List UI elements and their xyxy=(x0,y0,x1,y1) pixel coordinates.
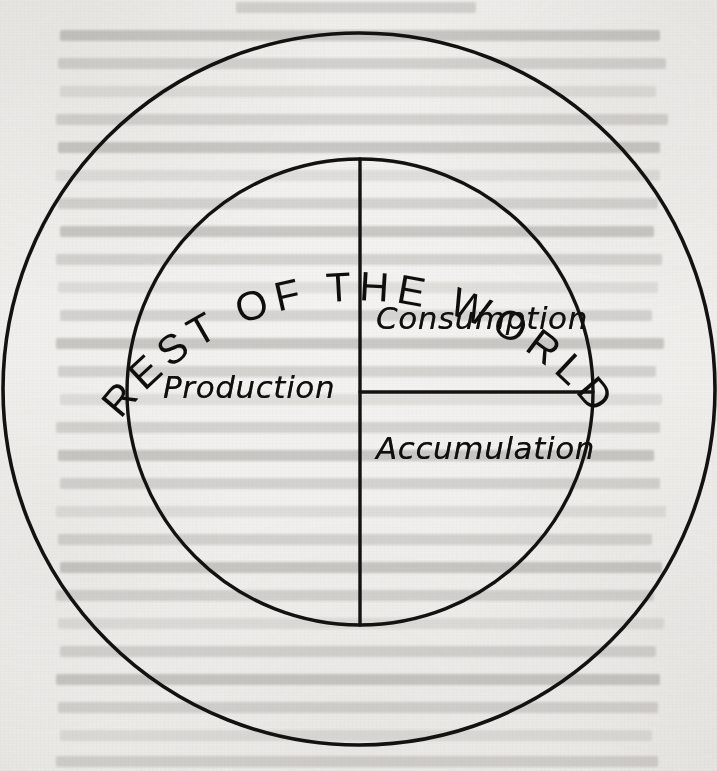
scanned-page: REST OF THE WORLD Production Consumption… xyxy=(0,0,717,771)
sector-label-consumption: Consumption xyxy=(376,300,588,336)
sector-label-accumulation: Accumulation xyxy=(376,430,595,466)
sector-label-production: Production xyxy=(163,369,335,405)
circle-diagram: REST OF THE WORLD xyxy=(0,0,717,771)
